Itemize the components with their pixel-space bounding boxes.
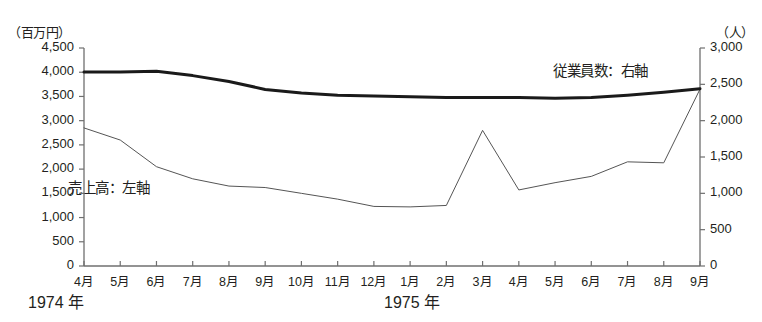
chart-container: （百万円） （人） 売上高：左軸 従業員数：右軸 1974 年 1975 年 4…: [0, 0, 762, 322]
plot-area: [0, 0, 762, 322]
series-line-sales: [84, 89, 700, 207]
series-line-employees: [84, 71, 700, 98]
